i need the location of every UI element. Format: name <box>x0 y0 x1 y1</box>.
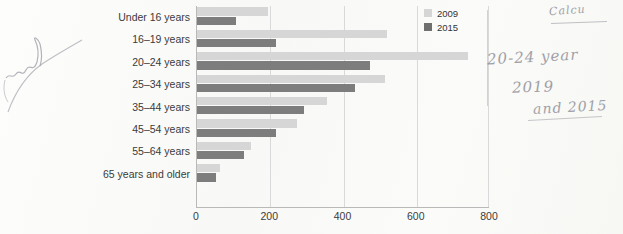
plot-area <box>196 6 489 208</box>
bar-group-row <box>197 163 489 185</box>
legend-item-2015: 2015 <box>424 20 458 34</box>
value-axis-labels: 0 200 400 600 800 <box>0 210 623 230</box>
legend-label: 2009 <box>437 8 458 19</box>
light-gray-swatch-icon <box>424 9 432 17</box>
x-tick-label: 800 <box>480 210 498 222</box>
pencil-scribble-mark <box>2 26 94 118</box>
bar-rows <box>197 6 489 207</box>
bar-2015 <box>197 84 355 92</box>
bar-2009 <box>197 119 297 127</box>
x-tick-label: 400 <box>334 210 352 222</box>
bar-2009 <box>197 52 468 60</box>
category-label: 20–24 years <box>132 51 190 73</box>
bar-group-row <box>197 140 489 162</box>
category-label: 55–64 years <box>132 140 190 162</box>
handwritten-2019: 2019 <box>512 77 555 96</box>
bar-group-row <box>197 96 489 118</box>
bar-2009 <box>197 30 387 38</box>
legend-label: 2015 <box>437 22 458 33</box>
x-tick-label: 0 <box>193 210 199 222</box>
bar-2009 <box>197 164 220 172</box>
dark-gray-swatch-icon <box>424 23 432 31</box>
x-tick-label: 600 <box>407 210 425 222</box>
category-label: 35–44 years <box>132 96 190 118</box>
x-tick-label: 200 <box>260 210 278 222</box>
handwritten-calcu: Calcu <box>549 3 587 19</box>
bar-2015 <box>197 39 276 47</box>
bar-2015 <box>197 106 304 114</box>
bar-2009 <box>197 75 385 83</box>
bar-2009 <box>197 142 251 150</box>
category-label: 16–19 years <box>132 28 190 50</box>
bar-2009 <box>197 97 327 105</box>
bar-2015 <box>197 173 216 181</box>
category-label: 25–34 years <box>132 73 190 95</box>
bar-2015 <box>197 17 236 25</box>
bar-group-row <box>197 73 489 95</box>
category-label: 45–54 years <box>132 118 190 140</box>
category-label: 65 years and older <box>103 163 190 185</box>
bar-group-row <box>197 51 489 73</box>
chart-legend: 2009 2015 <box>424 6 458 34</box>
bar-group-row <box>197 118 489 140</box>
scanned-chart-page: Under 16 years 16–19 years 20–24 years 2… <box>0 0 623 234</box>
category-label: Under 16 years <box>118 6 190 28</box>
bar-2015 <box>197 61 370 69</box>
bar-2009 <box>197 7 268 15</box>
bar-2015 <box>197 129 276 137</box>
legend-item-2009: 2009 <box>424 6 458 20</box>
bar-2015 <box>197 151 244 159</box>
